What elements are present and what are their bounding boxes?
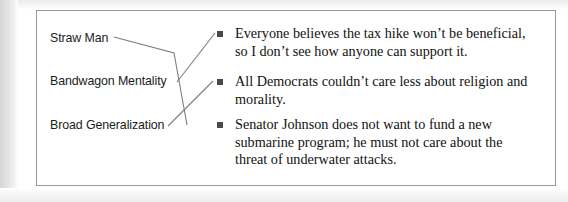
square-bullet-icon bbox=[217, 79, 223, 85]
statement-text: Everyone believes the tax hike won’t be … bbox=[235, 25, 535, 60]
scan-edge-bottom bbox=[0, 188, 568, 202]
terms-column: Straw Man Bandwagon Mentality Broad Gene… bbox=[37, 11, 237, 187]
statement-text: All Democrats couldn’t care less about r… bbox=[235, 73, 535, 108]
term-item-bandwagon-mentality[interactable]: Bandwagon Mentality bbox=[50, 74, 167, 88]
worksheet-page: Straw Man Bandwagon Mentality Broad Gene… bbox=[0, 0, 568, 202]
scan-edge-top bbox=[0, 0, 568, 9]
statement-item[interactable]: Senator Johnson does not want to fund a … bbox=[217, 116, 549, 169]
statements-column: Everyone believes the tax hike won’t be … bbox=[217, 11, 557, 187]
scan-edge-left bbox=[0, 0, 18, 202]
term-item-broad-generalization[interactable]: Broad Generalization bbox=[50, 118, 164, 132]
square-bullet-icon bbox=[217, 122, 223, 128]
matching-exercise-box: Straw Man Bandwagon Mentality Broad Gene… bbox=[36, 10, 556, 186]
statement-item[interactable]: All Democrats couldn’t care less about r… bbox=[217, 73, 549, 108]
statement-text: Senator Johnson does not want to fund a … bbox=[235, 116, 535, 169]
term-item-straw-man[interactable]: Straw Man bbox=[50, 31, 108, 45]
statement-item[interactable]: Everyone believes the tax hike won’t be … bbox=[217, 25, 549, 60]
square-bullet-icon bbox=[217, 31, 223, 37]
